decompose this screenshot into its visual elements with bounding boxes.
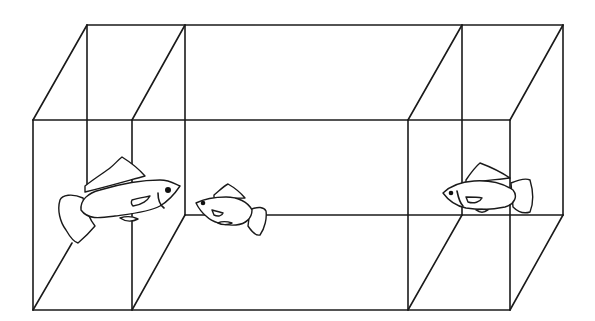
tank-diagram — [0, 0, 595, 321]
eye — [201, 201, 206, 206]
right-partition — [408, 25, 462, 310]
tank-drawing — [0, 0, 595, 321]
small-fish-center — [196, 184, 266, 235]
left-partition — [132, 25, 185, 310]
body — [443, 181, 515, 210]
belly-fin — [120, 217, 138, 222]
large-fish-left — [59, 157, 180, 243]
medium-fish-right — [443, 163, 533, 213]
eye — [165, 187, 171, 193]
belly-fin — [476, 209, 488, 212]
eye — [449, 191, 454, 196]
belly-fin — [218, 222, 232, 225]
